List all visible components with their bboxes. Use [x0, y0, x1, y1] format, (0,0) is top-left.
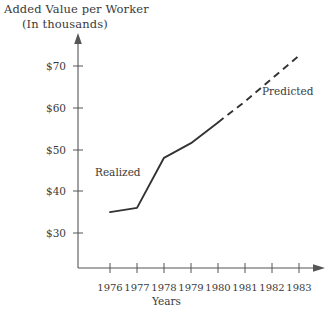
series-line-realized	[110, 122, 218, 212]
plot-area	[0, 0, 333, 309]
chart-container: Added Value per Worker (In thousands) $7…	[0, 0, 333, 309]
y-axis-arrow-icon	[74, 33, 82, 44]
series-line-predicted	[218, 56, 299, 123]
x-axis-arrow-icon	[313, 264, 325, 272]
x-axis	[78, 264, 325, 272]
